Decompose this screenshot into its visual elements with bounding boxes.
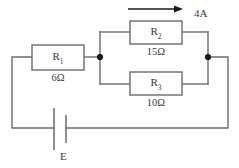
resistor-r3-value: 10Ω [130,98,182,109]
circuit-schematic-canvas [0,0,239,168]
circuit-diagram: R1 6Ω R2 15Ω R3 10Ω 4A E [0,0,239,168]
resistor-r1-value: 6Ω [32,73,84,84]
resistor-r3-label: R3 [130,77,182,91]
resistor-r2-label: R2 [130,26,182,40]
junction-dot-right [205,54,211,60]
resistor-r2-value: 15Ω [130,47,182,58]
battery-emf-label: E [60,151,80,162]
current-annotation-label: 4A [194,8,228,19]
current-arrow-head [174,6,183,13]
junction-dot-left [97,54,103,60]
resistor-r1-label: R1 [32,51,84,65]
